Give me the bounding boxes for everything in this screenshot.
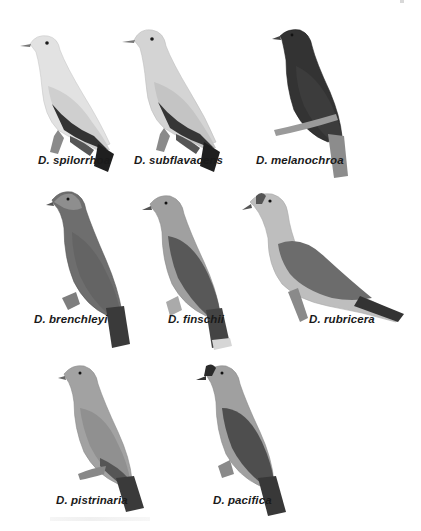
- species-label-brenchleyi: D. brenchleyi: [34, 313, 108, 325]
- bird-illustration-finschii: [142, 192, 252, 352]
- species-label-subflavacens: D. subflavacens: [134, 154, 223, 166]
- page-corner-mark: [400, 0, 404, 3]
- species-label-finschii: D. finschii: [168, 313, 224, 325]
- bird-illustration-pistrinaria: [58, 362, 158, 514]
- species-label-melanochroa: D. melanochroa: [256, 154, 344, 166]
- bird-illustration-rubricera: [242, 188, 407, 328]
- species-label-spilorrhoa: D. spilorrhoa: [38, 154, 110, 166]
- species-label-pacifica: D. pacifica: [213, 494, 272, 506]
- species-label-rubricera: D. rubricera: [309, 313, 375, 325]
- faint-caption-trace: [50, 517, 150, 521]
- species-label-pistrinaria: D. pistrinaria: [56, 494, 128, 506]
- bird-illustration-subflavacens: [118, 20, 243, 176]
- species-plate: D. spilorrhoa D. subflavacens D. melanoc…: [0, 0, 421, 531]
